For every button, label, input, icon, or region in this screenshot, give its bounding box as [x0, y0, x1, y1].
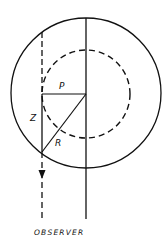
label-z: Z [29, 113, 37, 123]
r-segment-line [42, 94, 86, 152]
arrow-down-icon [39, 170, 46, 179]
diagram-canvas: P Z R OBSERVER [0, 0, 164, 244]
label-observer: OBSERVER [34, 228, 84, 237]
label-r: R [55, 138, 61, 148]
label-p: P [59, 81, 65, 91]
